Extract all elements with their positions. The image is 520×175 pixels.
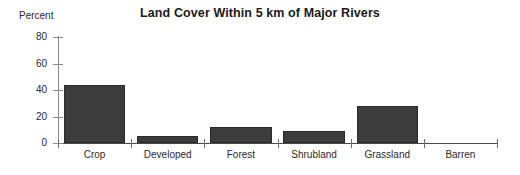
y-tick-label: 80 — [36, 32, 47, 42]
bar — [210, 127, 271, 143]
bar — [137, 136, 198, 143]
bar — [283, 131, 344, 143]
chart-title: Land Cover Within 5 km of Major Rivers — [0, 6, 520, 20]
bar — [357, 106, 418, 143]
x-tick-label: Forest — [204, 149, 277, 160]
y-tick-label: 40 — [36, 85, 47, 95]
bar-chart: Land Cover Within 5 km of Major Rivers P… — [0, 0, 520, 175]
bar — [64, 85, 125, 143]
x-tick-label: Developed — [131, 149, 204, 160]
x-tick-label: Grassland — [351, 149, 424, 160]
plot-area — [58, 37, 497, 143]
y-tick-label: 20 — [36, 112, 47, 122]
y-tick-label: 60 — [36, 59, 47, 69]
x-tick-label: Barren — [424, 149, 497, 160]
y-tick-label: 0 — [41, 138, 47, 148]
x-axis-end-tick — [497, 139, 498, 148]
x-tick-label: Crop — [58, 149, 131, 160]
y-axis-label: Percent — [19, 10, 53, 21]
x-tick-label: Shrubland — [278, 149, 351, 160]
